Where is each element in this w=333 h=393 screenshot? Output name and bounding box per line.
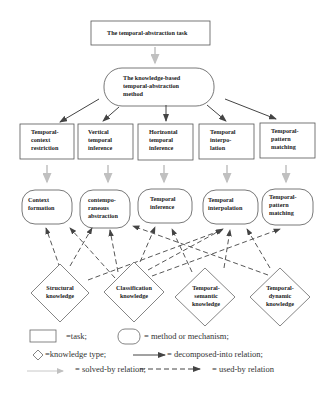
mechanism-label: Context formation: [28, 196, 64, 212]
legend-task-text: =task;: [66, 331, 87, 341]
legend-knowledge-text: =knowledge type;: [45, 349, 106, 359]
legend-used-text: = used-by relation: [212, 364, 274, 374]
mechanism-label: contempo-raneous abstraction: [88, 196, 126, 220]
mechanism-label: Temporal-pattern matching: [269, 193, 309, 217]
mechanism-label: Temporal interpolation: [208, 196, 258, 212]
subtask-label: Vertical temporal inference: [88, 128, 128, 152]
knowledge-label: Temporal-dynamic knowledge: [260, 284, 300, 308]
legend-method-shape: [118, 329, 140, 344]
method-label: The knowledge-based temporal-abstraction…: [123, 74, 199, 98]
subtask-label: Horizontal temporal inference: [149, 128, 189, 152]
legend-decomposed-text: = decomposed-into relation;: [167, 349, 263, 359]
knowledge-label: Temporal-semantic knowledge: [186, 284, 226, 308]
legend-solved-text: = solved-by relation;: [75, 364, 146, 374]
legend-diamond-shape: [33, 350, 43, 360]
mechanism-label: Temporal inference: [150, 195, 186, 211]
subtask-label: Temporal interpo-lation: [210, 128, 246, 152]
legend-method-text: = method or mechanism;: [144, 331, 229, 341]
knowledge-label: Structural knowledge: [40, 284, 80, 300]
subtask-label: Temporal-context restriction: [31, 128, 69, 152]
subtask-label: Temporal-pattern matching: [271, 127, 311, 151]
legend-task-shape: [30, 330, 56, 342]
knowledge-label: Classification knowledge: [108, 284, 160, 300]
task-label: The temporal-abstraction task: [107, 29, 207, 37]
